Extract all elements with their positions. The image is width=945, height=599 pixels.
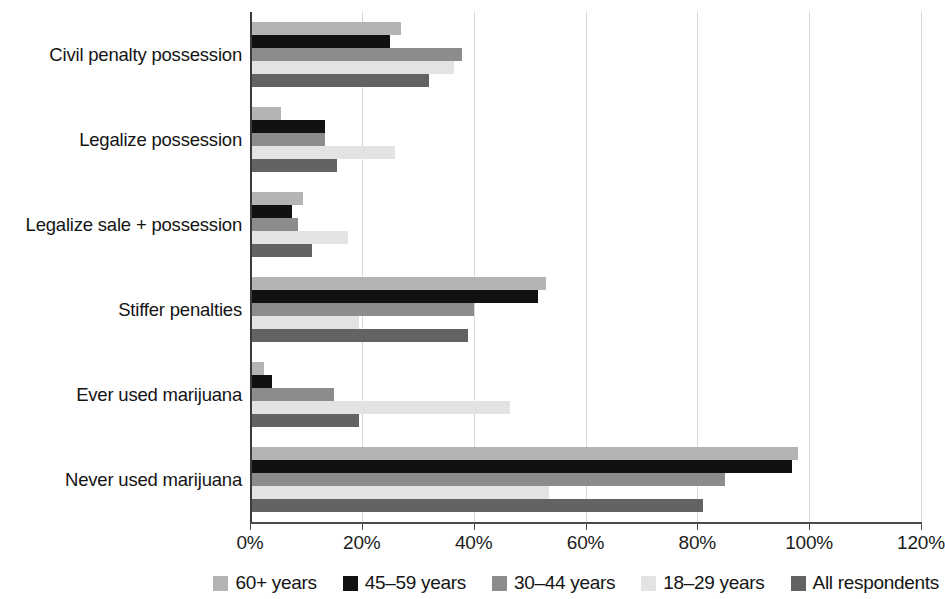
category-label: Civil penalty possession (2, 44, 242, 66)
x-tick-mark (474, 522, 475, 530)
x-tick-label: 80% (679, 532, 716, 554)
bar (250, 486, 549, 499)
category-label: Stiffer penalties (2, 299, 242, 321)
gridline (586, 12, 587, 522)
category-label: Legalize sale + possession (2, 214, 242, 236)
bar (250, 388, 334, 401)
gridline (921, 12, 922, 522)
bar (250, 22, 401, 35)
legend-swatch-icon (492, 576, 507, 591)
bar (250, 231, 348, 244)
gridline (474, 12, 475, 522)
plot-area (250, 12, 921, 522)
bar (250, 48, 462, 61)
legend-label: 30–44 years (514, 572, 615, 594)
legend-item[interactable]: 60+ years (213, 572, 316, 594)
legend-swatch-icon (213, 576, 228, 591)
bar (250, 120, 325, 133)
bar (250, 218, 298, 231)
bar (250, 447, 798, 460)
category-label: Never used marijuana (2, 469, 242, 491)
bar (250, 133, 325, 146)
bar (250, 107, 281, 120)
bar (250, 414, 359, 427)
bar (250, 473, 725, 486)
bar (250, 159, 337, 172)
bar (250, 316, 359, 329)
bar (250, 290, 538, 303)
legend-label: All respondents (813, 572, 939, 594)
bar (250, 244, 312, 257)
y-axis-line (250, 12, 252, 522)
bar (250, 375, 272, 388)
legend-item[interactable]: 18–29 years (641, 572, 764, 594)
x-tick-mark (586, 522, 587, 530)
x-tick-label: 100% (785, 532, 833, 554)
bar (250, 362, 264, 375)
x-tick-mark (362, 522, 363, 530)
category-label: Legalize possession (2, 129, 242, 151)
legend-swatch-icon (641, 576, 656, 591)
gridline (809, 12, 810, 522)
category-label: Ever used marijuana (2, 384, 242, 406)
legend-item[interactable]: 45–59 years (343, 572, 466, 594)
bar (250, 499, 703, 512)
x-tick-mark (250, 522, 251, 530)
bar (250, 401, 510, 414)
bar (250, 35, 390, 48)
category-labels: Civil penalty possessionLegalize possess… (0, 0, 242, 599)
bar (250, 146, 395, 159)
legend-item[interactable]: All respondents (791, 572, 939, 594)
bar (250, 205, 292, 218)
bar (250, 192, 303, 205)
bar (250, 303, 474, 316)
x-tick-label: 120% (897, 532, 945, 554)
bar (250, 460, 792, 473)
legend-label: 45–59 years (365, 572, 466, 594)
legend-label: 60+ years (235, 572, 316, 594)
bar-chart: 0%20%40%60%80%100%120% Civil penalty pos… (0, 0, 945, 599)
bar (250, 277, 546, 290)
legend-swatch-icon (343, 576, 358, 591)
x-tick-label: 20% (343, 532, 380, 554)
x-tick-mark (921, 522, 922, 530)
x-tick-mark (809, 522, 810, 530)
bar (250, 61, 454, 74)
chart-legend: 60+ years45–59 years30–44 years18–29 yea… (0, 572, 945, 594)
legend-swatch-icon (791, 576, 806, 591)
x-tick-label: 60% (567, 532, 604, 554)
legend-item[interactable]: 30–44 years (492, 572, 615, 594)
bar (250, 329, 468, 342)
gridline (362, 12, 363, 522)
x-tick-mark (697, 522, 698, 530)
gridline (697, 12, 698, 522)
bar (250, 74, 429, 87)
legend-label: 18–29 years (663, 572, 764, 594)
x-tick-label: 40% (455, 532, 492, 554)
